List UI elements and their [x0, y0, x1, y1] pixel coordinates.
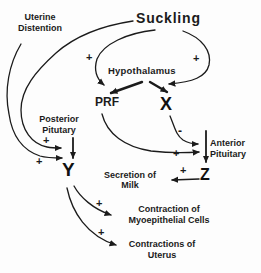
node-anterior-pituitary: Anterior Pituitary: [210, 138, 246, 159]
node-prf: PRF: [95, 97, 119, 108]
diagram-canvas: [0, 0, 261, 273]
secretion-of-milk-line2: Milk: [121, 180, 139, 190]
edge-x-to-anterior-pituitary: [170, 116, 198, 144]
anterior-pituitary-line1: Anterior: [210, 138, 245, 148]
anterior-pituitary-line2: Pituitary: [210, 149, 246, 159]
node-z: Z: [200, 166, 210, 184]
plus-sign-suckling-right: +: [193, 53, 199, 64]
uterine-distention-line1: Uterine: [24, 12, 55, 22]
plus-sign-prf-anterior: +: [173, 148, 179, 159]
node-posterior-pituitary: Posterior Pitutary: [33, 114, 85, 135]
node-secretion-of-milk: Secretion of Milk: [96, 170, 164, 190]
edge-hypothalamus-to-x: [150, 82, 167, 92]
contraction-myoepithelial-line2: Myoepithelial Cells: [128, 215, 209, 225]
contraction-myoepithelial-line1: Contraction of: [138, 204, 200, 214]
lactation-feedback-diagram: Uterine Distention Suckling Hypothalamus…: [0, 0, 261, 273]
edge-y-to-myoepithelial: [74, 186, 111, 215]
edge-suckling-to-hypothalamus-left: [96, 30, 155, 85]
edge-z-to-secretion-of-milk: [172, 179, 199, 180]
secretion-of-milk-line1: Secretion of: [104, 170, 156, 180]
posterior-pituitary-line2: Pitutary: [42, 125, 76, 135]
node-uterine-distention: Uterine Distention: [14, 12, 66, 33]
plus-sign-posterior-upper: +: [43, 135, 49, 146]
plus-sign-posterior-lower: +: [36, 156, 42, 167]
node-contractions-of-uterus: Contractions of Uterus: [112, 239, 212, 260]
uterine-distention-line2: Distention: [18, 23, 62, 33]
node-contraction-of-myoepithelial-cells: Contraction of Myoepithelial Cells: [119, 204, 219, 225]
contractions-uterus-line1: Contractions of: [129, 239, 196, 249]
posterior-pituitary-line1: Posterior: [39, 114, 79, 124]
node-x: X: [160, 94, 172, 115]
edge-prf-to-anterior-pituitary: [102, 114, 199, 153]
contractions-uterus-line2: Uterus: [148, 250, 177, 260]
minus-sign-x-anterior: -: [178, 126, 182, 137]
edge-hypothalamus-to-prf: [111, 82, 142, 93]
node-y: Y: [62, 159, 75, 181]
plus-sign-suckling-left: +: [86, 52, 92, 63]
node-hypothalamus: Hypothalamus: [108, 66, 176, 77]
edge-y-to-uterus: [67, 188, 116, 245]
plus-sign-y-myoepithelial: +: [96, 198, 102, 209]
plus-sign-y-uterus: +: [98, 227, 104, 238]
node-suckling: Suckling: [136, 10, 201, 26]
plus-sign-z-secretion: +: [180, 165, 186, 176]
